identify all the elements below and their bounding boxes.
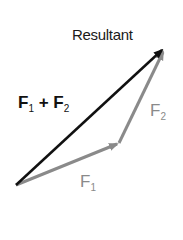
sum-f1: F: [18, 93, 28, 112]
resultant-label: Resultant: [72, 27, 133, 42]
sum-f2-sub: 2: [64, 103, 70, 114]
sum-op: +: [34, 93, 53, 112]
f2-base: F: [150, 101, 160, 120]
f2-vector: [119, 52, 163, 143]
resultant-vector: [16, 50, 162, 185]
f1-base: F: [80, 172, 90, 191]
f1-vector: [16, 144, 117, 185]
sum-f2: F: [53, 93, 63, 112]
f1-sub: 1: [90, 182, 96, 193]
f1-label: F1: [80, 173, 96, 193]
sum-label: F1 + F2: [18, 94, 69, 114]
f2-label: F2: [150, 102, 166, 122]
f2-sub: 2: [160, 111, 166, 122]
